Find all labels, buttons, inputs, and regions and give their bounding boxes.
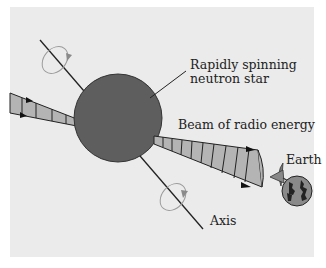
left-beam xyxy=(10,93,82,127)
rotation-arrow-lower-icon xyxy=(155,178,191,215)
beam-label: Beam of radio energy xyxy=(178,118,315,132)
star-label-leader xyxy=(150,71,186,98)
axis-label: Axis xyxy=(210,214,237,228)
neutron-star-label-line1: Rapidly spinning xyxy=(190,58,297,72)
earth-icon xyxy=(282,176,312,206)
neutron-star-label-line2: neutron star xyxy=(190,72,297,86)
neutron-star-label: Rapidly spinning neutron star xyxy=(190,58,297,86)
neutron-star xyxy=(74,74,162,162)
pulsar-diagram xyxy=(0,0,326,268)
earth-label: Earth xyxy=(286,153,322,167)
right-beam xyxy=(154,136,263,188)
